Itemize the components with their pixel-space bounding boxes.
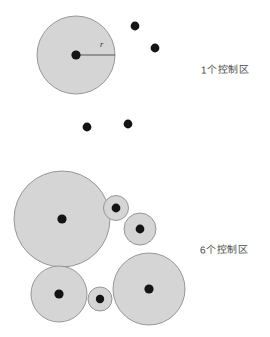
control-zone-diagram: r <box>0 0 270 337</box>
figure-root: r 1个控制区 6个控制区 <box>0 0 270 337</box>
free-point <box>151 44 160 53</box>
zone-center-dot <box>54 289 63 298</box>
caption-six-zones: 6个控制区 <box>200 240 248 256</box>
free-point <box>131 22 140 31</box>
zone-center-dot <box>96 295 104 303</box>
zone-center-dot <box>112 204 121 213</box>
zone-center-dot <box>144 284 153 293</box>
free-point <box>83 123 92 132</box>
zone-center-dot <box>136 225 145 234</box>
zone-center-dot <box>71 50 80 59</box>
zone-center-dot <box>57 214 66 223</box>
free-point <box>124 120 133 129</box>
caption-one-zone: 1个控制区 <box>201 60 249 76</box>
